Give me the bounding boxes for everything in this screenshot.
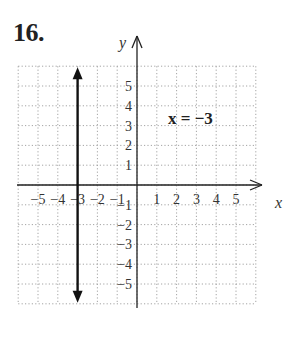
x-tick-label: 5 <box>233 192 240 207</box>
y-tick-label: −2 <box>117 218 132 233</box>
x-tick-label: −5 <box>31 192 46 207</box>
equation-label: x = −3 <box>168 109 213 128</box>
x-tick-label: 4 <box>213 192 220 207</box>
y-axis-label: y <box>117 34 127 52</box>
x-axis-label: x <box>274 194 282 211</box>
arrow-down-icon <box>73 291 83 303</box>
axes <box>17 36 262 308</box>
x-tick-label: 1 <box>153 192 160 207</box>
coordinate-plane: y x −5−4−3−2−112345 54321−1−2−3−4−5 x = … <box>0 0 303 339</box>
y-tick-label: −5 <box>117 277 132 292</box>
y-tick-label: −3 <box>117 237 132 252</box>
x-tick-label: −4 <box>50 192 65 207</box>
y-tick-label: −4 <box>117 257 132 272</box>
y-tick-label: 3 <box>125 119 132 134</box>
y-tick-label: 2 <box>125 138 132 153</box>
y-tick-label: 1 <box>125 158 132 173</box>
x-tick-label: 3 <box>193 192 200 207</box>
y-tick-label: −1 <box>117 198 132 213</box>
y-tick-label: 5 <box>125 79 132 94</box>
y-tick-label: 4 <box>125 99 132 114</box>
x-tick-label: 2 <box>173 192 180 207</box>
x-tick-label: −2 <box>90 192 105 207</box>
x-tick-labels: −5−4−3−2−112345 <box>31 192 240 207</box>
arrow-up-icon <box>73 67 83 79</box>
